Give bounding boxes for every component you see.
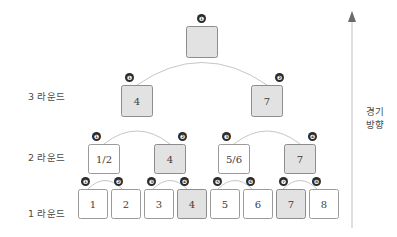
round-label-1: 1 라운드 <box>28 206 65 220</box>
badge-r1-5: ❺ <box>213 177 222 186</box>
arc-r3-final <box>137 63 267 86</box>
badge-r1-3: ❸ <box>147 177 156 186</box>
node-r1-2[interactable]: 2 <box>111 189 141 219</box>
round-label-2: 2 라운드 <box>28 150 65 164</box>
node-r1-7[interactable]: 7 <box>276 189 306 219</box>
node-r3-2[interactable]: 7 <box>251 85 283 117</box>
node-r1-3[interactable]: 3 <box>144 189 174 219</box>
node-champion[interactable] <box>186 26 218 58</box>
node-r1-8[interactable]: 8 <box>309 189 339 219</box>
arc-r2-pair1 <box>104 131 170 144</box>
node-r1-5[interactable]: 5 <box>210 189 240 219</box>
badge-r2-2: ❷ <box>178 132 187 141</box>
badge-r2-4: ❹ <box>308 132 317 141</box>
badge-champion-1: ❶ <box>197 14 206 23</box>
node-r2-3[interactable]: 5/6 <box>218 144 250 174</box>
node-r1-4[interactable]: 4 <box>177 189 207 219</box>
bracket-diagram: 3 라운드 2 라운드 1 라운드 ❶ 4 ❶ 7 ❷ 1/2 ❶ 4 ❷ 5/… <box>0 0 397 237</box>
node-r2-4[interactable]: 7 <box>284 144 316 174</box>
badge-r1-1: ❶ <box>81 177 90 186</box>
badge-r1-2: ❷ <box>114 177 123 186</box>
node-r1-6[interactable]: 6 <box>243 189 273 219</box>
badge-r2-1: ❶ <box>92 132 101 141</box>
badge-r3-1: ❶ <box>125 73 134 82</box>
node-r3-1[interactable]: 4 <box>121 85 153 117</box>
badge-r1-7: ❼ <box>279 177 288 186</box>
node-r2-1[interactable]: 1/2 <box>88 144 120 174</box>
badge-r1-8: ❽ <box>312 177 321 186</box>
up-arrow-icon <box>348 11 356 22</box>
badge-r1-4: ❹ <box>180 177 189 186</box>
badge-r1-6: ❻ <box>246 177 255 186</box>
badge-r3-2: ❷ <box>275 73 284 82</box>
node-r2-2[interactable]: 4 <box>154 144 186 174</box>
direction-label-line1: 경기 <box>366 105 384 118</box>
round-label-3: 3 라운드 <box>28 89 65 103</box>
arc-r2-pair2 <box>234 131 300 144</box>
badge-r2-3: ❸ <box>222 132 231 141</box>
direction-label-line2: 방향 <box>366 118 384 131</box>
node-r1-1[interactable]: 1 <box>78 189 108 219</box>
